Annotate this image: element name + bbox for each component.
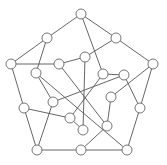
graph-node [65, 113, 75, 123]
graph-edge [85, 38, 116, 57]
graph-node [102, 121, 112, 131]
graph-diagram [0, 0, 167, 165]
graph-node [80, 52, 90, 62]
graph-node [19, 103, 29, 113]
graph-node [106, 92, 116, 102]
graph-node [148, 59, 158, 69]
graph-edge [127, 108, 140, 150]
graph-edge [140, 64, 153, 108]
graph-edge [11, 64, 24, 108]
graph-edge [37, 102, 53, 150]
graph-node [32, 145, 42, 155]
graph-edge [24, 108, 37, 150]
graph-edge [81, 14, 116, 38]
nodes-layer [6, 9, 158, 155]
graph-node [122, 145, 132, 155]
graph-node [42, 33, 52, 43]
graph-node [111, 33, 121, 43]
graph-edge [11, 38, 47, 64]
graph-node [76, 145, 86, 155]
graph-edge [81, 14, 103, 74]
graph-node [135, 103, 145, 113]
graph-node [76, 9, 86, 19]
graph-edge [83, 57, 85, 130]
graph-canvas [0, 0, 167, 165]
graph-node [78, 125, 88, 135]
graph-edge [116, 38, 153, 64]
graph-node [98, 69, 108, 79]
graph-edge [70, 74, 103, 118]
graph-edge [36, 38, 47, 73]
graph-edge [47, 14, 81, 38]
graph-node [54, 59, 64, 69]
graph-node [119, 70, 129, 80]
graph-edge [24, 108, 70, 118]
graph-node [48, 97, 58, 107]
graph-node [6, 59, 16, 69]
graph-node [31, 68, 41, 78]
